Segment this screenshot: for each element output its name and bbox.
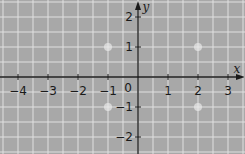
origin-label: 0	[124, 81, 132, 95]
grid-canvas: −4−3−2−1123−2−1120xy	[0, 0, 245, 154]
x-tick-label: −3	[39, 84, 57, 98]
y-tick-label: 1	[125, 40, 133, 54]
x-tick-label: 3	[224, 84, 232, 98]
x-tick-label: 1	[164, 84, 172, 98]
y-tick-label: 2	[125, 10, 133, 24]
x-tick-label: −4	[9, 84, 27, 98]
marked-point	[104, 43, 112, 51]
y-axis-label: y	[142, 0, 150, 14]
marked-point	[194, 43, 202, 51]
x-tick-label: 2	[194, 84, 202, 98]
y-tick-label: −2	[115, 130, 133, 144]
x-tick-label: −1	[99, 84, 117, 98]
x-tick-label: −2	[69, 84, 87, 98]
marked-point	[104, 103, 112, 111]
coordinate-grid: −4−3−2−1123−2−1120xy	[0, 0, 245, 154]
x-axis-label: x	[234, 62, 241, 76]
y-tick-label: −1	[115, 100, 133, 114]
marked-point	[194, 103, 202, 111]
